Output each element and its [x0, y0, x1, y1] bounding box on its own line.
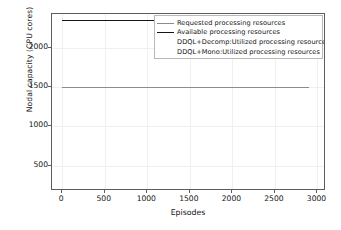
legend-line-swatch — [157, 37, 174, 46]
y-tick-label: 1500 — [4, 81, 48, 90]
legend-label: DDQL+Decomp:Utilized processing resource… — [177, 38, 325, 46]
legend-line-swatch — [157, 18, 174, 27]
legend-item[interactable]: DDQL+Mono:Utilized processing resources — [157, 47, 319, 57]
x-tick-mark — [316, 190, 317, 193]
legend-label: Requested processing resources — [177, 19, 285, 27]
gridline-horizontal — [52, 126, 324, 127]
x-tick-label: 3000 — [296, 194, 336, 203]
y-tick-label: 1000 — [4, 120, 48, 129]
x-tick-mark — [61, 190, 62, 193]
y-tick-label: 2000 — [4, 42, 48, 51]
y-tick-label: 500 — [4, 160, 48, 169]
legend-label: DDQL+Mono:Utilized processing resources — [177, 48, 320, 56]
gridline-vertical — [147, 14, 148, 189]
legend-item[interactable]: Available processing resources — [157, 28, 319, 38]
x-tick-label: 2500 — [254, 194, 294, 203]
x-axis-label: Episodes — [51, 208, 325, 217]
x-tick-mark — [104, 190, 105, 193]
x-tick-label: 500 — [84, 194, 124, 203]
gridline-horizontal — [52, 166, 324, 167]
legend-line-swatch — [157, 47, 174, 56]
plot-area: Requested processing resourcesAvailable … — [51, 13, 325, 190]
gridline-vertical — [62, 14, 63, 189]
x-tick-label: 1000 — [126, 194, 166, 203]
legend-item[interactable]: DDQL+Decomp:Utilized processing resource… — [157, 37, 319, 47]
legend-label: Available processing resources — [177, 28, 280, 36]
gridline-vertical — [105, 14, 106, 189]
x-tick-label: 1500 — [169, 194, 209, 203]
figure: Nodal capacity (CPU cores) Episodes 5001… — [0, 0, 341, 230]
x-tick-label: 0 — [41, 194, 81, 203]
legend-line-swatch — [157, 28, 174, 37]
x-tick-mark — [189, 190, 190, 193]
legend[interactable]: Requested processing resourcesAvailable … — [154, 15, 323, 59]
x-tick-mark — [146, 190, 147, 193]
legend-item[interactable]: Requested processing resources — [157, 18, 319, 28]
series-line — [62, 87, 309, 88]
series-line — [62, 20, 154, 21]
x-tick-mark — [274, 190, 275, 193]
x-tick-label: 2000 — [211, 194, 251, 203]
x-tick-mark — [231, 190, 232, 193]
